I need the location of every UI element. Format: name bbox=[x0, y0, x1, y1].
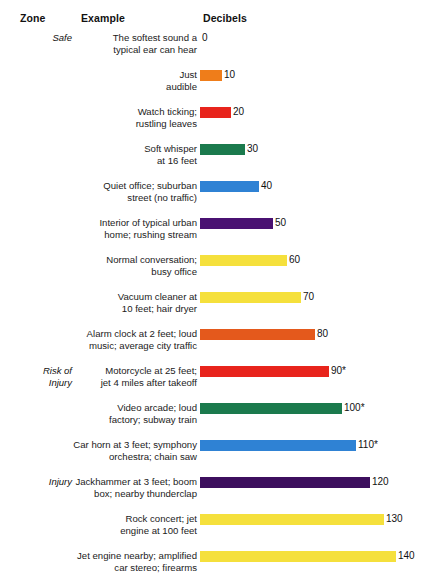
chart-row: SafeThe softest sound atypical ear can h… bbox=[0, 30, 429, 67]
example-label: Rock concert; jetengine at 100 feet bbox=[18, 513, 197, 536]
example-label: Justaudible bbox=[18, 69, 197, 92]
decibel-value: 90* bbox=[331, 365, 346, 377]
decibel-bar bbox=[200, 181, 259, 192]
decibel-value: 140 bbox=[398, 550, 415, 562]
column-headers: Zone Example Decibels bbox=[0, 12, 429, 28]
decibel-bar bbox=[200, 329, 315, 340]
decibel-bar bbox=[200, 551, 396, 562]
column-header-example: Example bbox=[81, 12, 125, 24]
bar-area: 50 bbox=[200, 218, 429, 230]
bar-area: 90* bbox=[200, 366, 429, 378]
decibel-chart: Zone Example Decibels SafeThe softest so… bbox=[0, 0, 429, 584]
chart-rows: SafeThe softest sound atypical ear can h… bbox=[0, 30, 429, 584]
decibel-value: 70 bbox=[303, 291, 314, 303]
bar-area: 80 bbox=[200, 329, 429, 341]
chart-row: Watch ticking;rustling leaves20 bbox=[0, 104, 429, 141]
bar-area: 20 bbox=[200, 107, 429, 119]
bar-area: 140 bbox=[200, 551, 429, 563]
chart-row: Alarm clock at 2 feet; loudmusic; averag… bbox=[0, 326, 429, 363]
chart-row: Risk of InjuryMotorcycle at 25 feet;jet … bbox=[0, 363, 429, 400]
decibel-value: 110* bbox=[358, 439, 378, 451]
decibel-value: 0 bbox=[202, 32, 208, 44]
bar-area: 0 bbox=[200, 33, 429, 45]
decibel-value: 50 bbox=[275, 217, 286, 229]
decibel-value: 10 bbox=[224, 69, 235, 81]
bar-area: 30 bbox=[200, 144, 429, 156]
bar-area: 120 bbox=[200, 477, 429, 489]
column-header-zone: Zone bbox=[20, 12, 45, 24]
chart-row: Justaudible10 bbox=[0, 67, 429, 104]
example-label: Watch ticking;rustling leaves bbox=[18, 106, 197, 129]
example-label: Interior of typical urbanhome; rushing s… bbox=[18, 217, 197, 240]
decibel-bar bbox=[200, 144, 245, 155]
bar-area: 60 bbox=[200, 255, 429, 267]
decibel-bar bbox=[200, 107, 231, 118]
example-label: Video arcade; loudfactory; subway train bbox=[18, 402, 197, 425]
example-label: Quiet office; suburbanstreet (no traffic… bbox=[18, 180, 197, 203]
chart-row: Video arcade; loudfactory; subway train1… bbox=[0, 400, 429, 437]
example-label: Soft whisperat 16 feet bbox=[18, 143, 197, 166]
chart-row: Car horn at 3 feet; symphonyorchestra; c… bbox=[0, 437, 429, 474]
column-header-decibels: Decibels bbox=[203, 12, 247, 24]
example-label: Jet engine nearby; amplifiedcar stereo; … bbox=[18, 550, 197, 573]
example-label: Jackhammer at 3 feet; boombox; nearby th… bbox=[18, 476, 197, 499]
chart-row: Quiet office; suburbanstreet (no traffic… bbox=[0, 178, 429, 215]
decibel-bar bbox=[200, 70, 222, 81]
decibel-bar bbox=[200, 366, 329, 377]
decibel-value: 60 bbox=[289, 254, 300, 266]
decibel-bar bbox=[200, 440, 356, 451]
example-label: Motorcycle at 25 feet;jet 4 miles after … bbox=[18, 365, 197, 388]
chart-row: Vacuum cleaner at10 feet; hair dryer70 bbox=[0, 289, 429, 326]
example-label: The softest sound atypical ear can hear bbox=[18, 32, 197, 55]
bar-area: 130 bbox=[200, 514, 429, 526]
chart-row: Normal conversation;busy office60 bbox=[0, 252, 429, 289]
decibel-bar bbox=[200, 514, 384, 525]
example-label: Normal conversation;busy office bbox=[18, 254, 197, 277]
chart-row: Rock concert; jetengine at 100 feet130 bbox=[0, 511, 429, 548]
decibel-bar bbox=[200, 292, 301, 303]
decibel-value: 130 bbox=[386, 513, 403, 525]
decibel-value: 100* bbox=[344, 402, 365, 414]
chart-row: Soft whisperat 16 feet30 bbox=[0, 141, 429, 178]
decibel-value: 40 bbox=[261, 180, 272, 192]
bar-area: 70 bbox=[200, 292, 429, 304]
decibel-bar bbox=[200, 218, 273, 229]
bar-area: 10 bbox=[200, 70, 429, 82]
bar-area: 100* bbox=[200, 403, 429, 415]
chart-row: Jet engine nearby; amplifiedcar stereo; … bbox=[0, 548, 429, 584]
chart-row: InjuryJackhammer at 3 feet; boombox; nea… bbox=[0, 474, 429, 511]
decibel-value: 20 bbox=[233, 106, 244, 118]
example-label: Alarm clock at 2 feet; loudmusic; averag… bbox=[18, 328, 197, 351]
bar-area: 40 bbox=[200, 181, 429, 193]
decibel-value: 120 bbox=[372, 476, 389, 488]
decibel-value: 30 bbox=[247, 143, 258, 155]
bar-area: 110* bbox=[200, 440, 429, 452]
decibel-bar bbox=[200, 255, 287, 266]
example-label: Car horn at 3 feet; symphonyorchestra; c… bbox=[18, 439, 197, 462]
decibel-bar bbox=[200, 477, 370, 488]
example-label: Vacuum cleaner at10 feet; hair dryer bbox=[18, 291, 197, 314]
decibel-bar bbox=[200, 403, 342, 414]
decibel-value: 80 bbox=[317, 328, 328, 340]
chart-row: Interior of typical urbanhome; rushing s… bbox=[0, 215, 429, 252]
